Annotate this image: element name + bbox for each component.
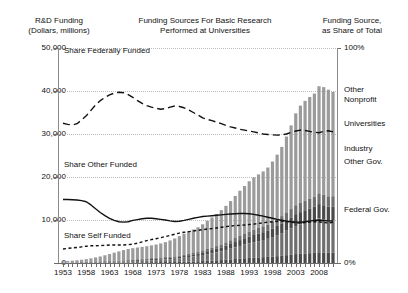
x-axis-tickmark (272, 263, 273, 267)
chart-root: R&D Funding (Dollars, millions) Funding … (0, 0, 408, 293)
left-axis-line (58, 48, 59, 263)
x-axis-tickmark (286, 263, 287, 267)
x-axis-tickmark (124, 263, 125, 267)
x-axis-tickmark (100, 263, 101, 267)
x-axis-tickmark (291, 263, 292, 267)
x-axis-tickmark (82, 263, 83, 267)
x-axis-tickmark (217, 263, 218, 267)
series-line (63, 200, 333, 223)
x-axis-tickmark (203, 263, 204, 267)
right-axis-title-line2: as Share of Total (300, 26, 404, 36)
x-axis-tickmark (231, 263, 232, 267)
x-axis-tickmark (128, 263, 129, 267)
x-axis-tickmark (263, 263, 264, 267)
x-axis-tickmark (63, 263, 64, 267)
annotation-self: Share Self Funded (64, 231, 131, 240)
x-axis-tickmark (96, 263, 97, 267)
x-axis-tickmark (184, 263, 185, 267)
legend-label-federal-gov: Federal Gov. (344, 205, 390, 214)
x-axis-tickmark (324, 263, 325, 267)
x-axis-tickmark (235, 263, 236, 267)
x-axis-tickmark (114, 263, 115, 267)
chart-title-line1: Funding Sources For Basic Research (110, 16, 300, 26)
x-axis-tickmark (282, 263, 283, 267)
x-axis-tickmark (310, 263, 311, 267)
x-axis-tickmark (179, 263, 180, 267)
left-axis-title-line2: (Dollars, millions) (8, 26, 110, 36)
right-axis-line (337, 48, 338, 263)
right-axis-tick-label: 100% (344, 43, 364, 52)
x-axis-tickmark (198, 263, 199, 267)
x-axis-tickmark (328, 263, 329, 267)
right-axis-tick-label: 0% (344, 258, 356, 267)
x-axis-tickmark (333, 263, 334, 267)
x-axis-tickmark (300, 263, 301, 267)
x-axis-tickmark (245, 263, 246, 267)
x-axis-tickmark (249, 263, 250, 267)
x-axis-tickmark (119, 263, 120, 267)
x-axis-tickmark (189, 263, 190, 267)
x-axis-tickmark (175, 263, 176, 267)
right-axis-title-line1: Funding Source, (300, 16, 404, 26)
annotation-other: Share Other Funded (64, 160, 137, 169)
x-axis-tickmark (259, 263, 260, 267)
x-axis-tickmark (226, 263, 227, 267)
x-axis-tickmark (142, 263, 143, 267)
x-axis-tickmark (305, 263, 306, 267)
x-axis-tickmark (147, 263, 148, 267)
x-axis-tickmark (77, 263, 78, 267)
left-axis-title: R&D Funding (Dollars, millions) (8, 16, 110, 36)
annotation-federal: Share Federally Funded (64, 46, 150, 55)
x-axis-tickmark (319, 263, 320, 267)
x-axis-tickmark (156, 263, 157, 267)
chart-title-line2: Performed at Universities (110, 26, 300, 36)
x-axis-tickmark (86, 263, 87, 267)
x-axis-tickmark (277, 263, 278, 267)
chart-title: Funding Sources For Basic Research Perfo… (110, 16, 300, 36)
plot-area: Share Federally Funded Share Other Funde… (58, 48, 338, 263)
right-axis-title: Funding Source, as Share of Total (300, 16, 404, 36)
x-axis-tickmark (110, 263, 111, 267)
x-axis-tickmark (91, 263, 92, 267)
x-axis-tickmark (268, 263, 269, 267)
x-axis-tickmark (207, 263, 208, 267)
x-axis-tickmark (161, 263, 162, 267)
legend-label-other-gov: Other Gov. (344, 157, 383, 166)
x-axis-tick-label: 2008 (304, 268, 334, 277)
x-axis-tickmark (170, 263, 171, 267)
x-axis-tickmark (151, 263, 152, 267)
legend-label-universities: Universities (344, 119, 385, 128)
x-axis-tickmark (105, 263, 106, 267)
x-axis-tickmark (133, 263, 134, 267)
x-axis-tickmark (240, 263, 241, 267)
x-axis-tickmark (137, 263, 138, 267)
x-axis-tickmark (296, 263, 297, 267)
x-axis-tickmark (254, 263, 255, 267)
x-axis-tickmark (314, 263, 315, 267)
x-axis-tickmark (72, 263, 73, 267)
legend-label-industry: Industry (344, 144, 372, 153)
x-axis-tickmark (221, 263, 222, 267)
x-axis-tickmark (193, 263, 194, 267)
x-axis-tickmark (212, 263, 213, 267)
legend-label-other-nonprofit-line2: Nonprofit (344, 95, 376, 104)
series-line (63, 92, 333, 135)
left-axis-title-line1: R&D Funding (8, 16, 110, 26)
x-axis-tickmark (68, 263, 69, 267)
legend-label-other-nonprofit-line1: Other (344, 85, 364, 94)
x-axis-tickmark (165, 263, 166, 267)
